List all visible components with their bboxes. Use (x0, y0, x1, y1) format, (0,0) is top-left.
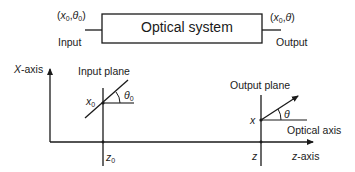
z-axis-label: z-axis (292, 151, 319, 162)
output-angle-label: θ (284, 109, 290, 120)
z-dot (260, 141, 263, 144)
z0-dot (102, 141, 105, 144)
output-ray (261, 96, 298, 120)
optical-system-label: Optical system (141, 20, 233, 34)
input-point-label: x0 (86, 96, 95, 108)
z-label: z (252, 151, 257, 162)
output-plane-label: Output plane (230, 80, 290, 91)
output-label: Output (276, 37, 308, 48)
x-axis-label: X-axis (14, 64, 43, 75)
z0-label: z0 (106, 152, 115, 164)
input-label: Input (58, 37, 81, 48)
input-plane-label: Input plane (78, 66, 130, 77)
input-angle-arc (116, 92, 120, 103)
output-point-label: x (250, 115, 255, 126)
output-coordinate-label: (x0,θ) (270, 12, 295, 24)
output-point-dot (259, 118, 262, 121)
input-coordinate-label: (x0,θ0) (57, 10, 86, 22)
optical-axis-label: Optical axis (287, 125, 341, 136)
input-angle-label: θ0 (124, 90, 134, 102)
output-angle-arc (278, 109, 281, 120)
input-point-dot (101, 101, 104, 104)
